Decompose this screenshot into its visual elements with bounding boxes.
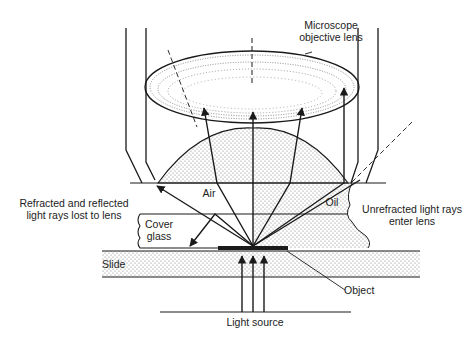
label-cover-glass-line2: glass <box>142 230 176 242</box>
slide <box>102 251 420 277</box>
lost-ray-dashed-right <box>352 122 412 182</box>
label-light-source: Light source <box>220 316 290 328</box>
objective-leader-line <box>305 52 312 54</box>
label-objective-lens-line2: objective lens <box>276 31 386 43</box>
label-lost-rays: Refracted and reflected light rays lost … <box>16 197 132 221</box>
object-specimen <box>218 246 288 250</box>
label-objective-lens-line1: Microscope <box>276 19 386 31</box>
label-unrefracted: Unrefracted light rays enter lens <box>356 203 468 227</box>
label-cover-glass-line1: Cover <box>142 218 176 230</box>
label-unrefracted-line1: Unrefracted light rays <box>356 203 468 215</box>
label-object: Object <box>344 284 384 296</box>
label-cover-glass: Cover glass <box>142 218 176 242</box>
label-slide: Slide <box>102 258 128 270</box>
label-unrefracted-line2: enter lens <box>356 215 468 227</box>
label-lost-rays-line2: light rays lost to lens <box>16 209 132 221</box>
label-objective-lens: Microscope objective lens <box>276 19 386 43</box>
objective-lens <box>145 51 359 123</box>
label-air: Air <box>198 187 220 199</box>
label-lost-rays-line1: Refracted and reflected <box>16 197 132 209</box>
label-oil: Oil <box>322 196 342 208</box>
microscopy-diagram <box>0 0 475 345</box>
